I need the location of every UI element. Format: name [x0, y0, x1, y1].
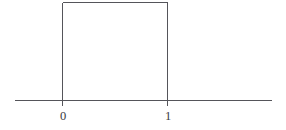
uniform-distribution-figure: 0 1: [0, 0, 286, 130]
x-tick-label-0: 0: [60, 109, 66, 123]
plot-canvas: 0 1: [0, 0, 286, 130]
x-tick-label-1: 1: [165, 109, 171, 123]
